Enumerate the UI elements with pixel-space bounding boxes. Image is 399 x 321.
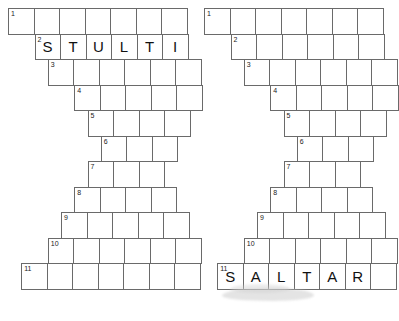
- grid-cell[interactable]: 11: [21, 263, 48, 290]
- grid-cell[interactable]: [348, 136, 375, 163]
- grid-cell[interactable]: [296, 187, 323, 214]
- grid-cell[interactable]: [370, 263, 397, 290]
- grid-cell[interactable]: [332, 8, 359, 35]
- grid-cell[interactable]: 6: [297, 136, 324, 163]
- grid-cell[interactable]: [112, 212, 139, 239]
- grid-cell[interactable]: [176, 85, 203, 112]
- grid-cell[interactable]: 9: [257, 212, 284, 239]
- grid-cell[interactable]: [308, 212, 335, 239]
- grid-cell[interactable]: [163, 212, 190, 239]
- grid-cell[interactable]: [73, 59, 100, 86]
- grid-cell[interactable]: [151, 85, 178, 112]
- grid-cell[interactable]: U: [86, 34, 113, 61]
- grid-cell[interactable]: 5: [284, 110, 311, 137]
- grid-cell[interactable]: 1: [8, 8, 35, 35]
- grid-cell[interactable]: A: [243, 263, 270, 290]
- grid-cell[interactable]: 7: [88, 161, 115, 188]
- grid-cell[interactable]: [309, 110, 336, 137]
- grid-cell[interactable]: [358, 34, 385, 61]
- grid-cell[interactable]: 7: [284, 161, 311, 188]
- grid-cell[interactable]: R: [345, 263, 372, 290]
- grid-cell[interactable]: [359, 212, 386, 239]
- grid-cell[interactable]: [124, 59, 151, 86]
- grid-cell[interactable]: [98, 263, 125, 290]
- grid-cell[interactable]: [99, 59, 126, 86]
- grid-cell[interactable]: [139, 110, 166, 137]
- grid-cell[interactable]: [87, 212, 114, 239]
- grid-cell[interactable]: [123, 263, 150, 290]
- grid-cell[interactable]: [283, 212, 310, 239]
- grid-cell[interactable]: [110, 8, 137, 35]
- grid-cell[interactable]: T: [60, 34, 87, 61]
- grid-cell[interactable]: [139, 161, 166, 188]
- grid-cell[interactable]: 3: [48, 59, 75, 86]
- grid-cell[interactable]: [371, 59, 398, 86]
- grid-cell[interactable]: A: [319, 263, 346, 290]
- grid-cell[interactable]: [371, 238, 398, 265]
- grid-cell[interactable]: [175, 238, 202, 265]
- grid-cell[interactable]: [320, 238, 347, 265]
- grid-cell[interactable]: 11S: [217, 263, 244, 290]
- grid-cell[interactable]: [230, 8, 257, 35]
- grid-cell[interactable]: [150, 59, 177, 86]
- grid-cell[interactable]: [34, 8, 61, 35]
- grid-cell[interactable]: [372, 85, 399, 112]
- grid-cell[interactable]: [161, 8, 188, 35]
- grid-cell[interactable]: 4: [74, 85, 101, 112]
- grid-cell[interactable]: [347, 85, 374, 112]
- grid-cell[interactable]: L: [111, 34, 138, 61]
- grid-cell[interactable]: [149, 263, 176, 290]
- grid-cell[interactable]: [322, 136, 349, 163]
- grid-cell[interactable]: [150, 238, 177, 265]
- grid-cell[interactable]: T: [294, 263, 321, 290]
- grid-cell[interactable]: 2S: [35, 34, 62, 61]
- grid-cell[interactable]: [151, 187, 178, 214]
- grid-cell[interactable]: 8: [270, 187, 297, 214]
- grid-cell[interactable]: [175, 59, 202, 86]
- grid-cell[interactable]: [255, 8, 282, 35]
- grid-cell[interactable]: [126, 136, 153, 163]
- grid-cell[interactable]: [152, 136, 179, 163]
- grid-cell[interactable]: [282, 34, 309, 61]
- grid-cell[interactable]: [309, 161, 336, 188]
- grid-cell[interactable]: 1: [204, 8, 231, 35]
- grid-cell[interactable]: [321, 187, 348, 214]
- grid-cell[interactable]: [321, 85, 348, 112]
- grid-cell[interactable]: [269, 59, 296, 86]
- grid-cell[interactable]: [138, 212, 165, 239]
- grid-cell[interactable]: [124, 238, 151, 265]
- grid-cell[interactable]: [174, 263, 201, 290]
- grid-cell[interactable]: [360, 110, 387, 137]
- grid-cell[interactable]: [72, 263, 99, 290]
- grid-cell[interactable]: 6: [101, 136, 128, 163]
- grid-cell[interactable]: [306, 8, 333, 35]
- grid-cell[interactable]: [164, 110, 191, 137]
- grid-cell[interactable]: 4: [270, 85, 297, 112]
- grid-cell[interactable]: 5: [88, 110, 115, 137]
- grid-cell[interactable]: 2: [231, 34, 258, 61]
- grid-cell[interactable]: [125, 187, 152, 214]
- grid-cell[interactable]: [125, 85, 152, 112]
- grid-cell[interactable]: [281, 8, 308, 35]
- grid-cell[interactable]: [113, 161, 140, 188]
- grid-cell[interactable]: [347, 187, 374, 214]
- grid-cell[interactable]: [357, 8, 384, 35]
- grid-cell[interactable]: 10: [48, 238, 75, 265]
- grid-cell[interactable]: [85, 8, 112, 35]
- grid-cell[interactable]: [333, 34, 360, 61]
- grid-cell[interactable]: [335, 161, 362, 188]
- grid-cell[interactable]: [73, 238, 100, 265]
- grid-cell[interactable]: [346, 59, 373, 86]
- grid-cell[interactable]: [295, 238, 322, 265]
- grid-cell[interactable]: [295, 59, 322, 86]
- grid-cell[interactable]: 3: [244, 59, 271, 86]
- grid-cell[interactable]: [269, 238, 296, 265]
- grid-cell[interactable]: [136, 8, 163, 35]
- grid-cell[interactable]: [59, 8, 86, 35]
- grid-cell[interactable]: [100, 85, 127, 112]
- grid-cell[interactable]: 9: [61, 212, 88, 239]
- grid-cell[interactable]: [47, 263, 74, 290]
- grid-cell[interactable]: [99, 238, 126, 265]
- grid-cell[interactable]: [346, 238, 373, 265]
- grid-cell[interactable]: [320, 59, 347, 86]
